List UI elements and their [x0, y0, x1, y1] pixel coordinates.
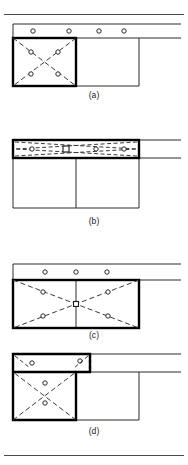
- panel-b-drawing: [0, 136, 188, 228]
- brace-diagonal: [74, 356, 88, 368]
- panel-b: (b): [0, 136, 188, 228]
- figure-root: (a): [0, 0, 188, 465]
- bottom-rule: [4, 455, 184, 456]
- brace-node: [41, 290, 45, 294]
- brace-node: [122, 147, 126, 151]
- beam-node: [97, 29, 101, 33]
- beam-node: [105, 270, 109, 274]
- beam-node: [31, 29, 35, 33]
- beam-node: [122, 29, 126, 33]
- caption-c: (c): [0, 330, 188, 340]
- brace-node: [94, 147, 98, 151]
- caption-a: (a): [0, 90, 188, 100]
- caption-b: (b): [0, 216, 188, 226]
- beam-node: [30, 361, 34, 365]
- brace-node: [29, 72, 33, 76]
- beam-node: [43, 270, 47, 274]
- brace-node: [106, 314, 110, 318]
- brace-node: [41, 314, 45, 318]
- bold-substructure-outline: [13, 354, 90, 420]
- panel-a: (a): [0, 18, 188, 106]
- panel-c: (c): [0, 258, 188, 346]
- brace-node: [30, 147, 34, 151]
- brace-node: [43, 401, 47, 405]
- brace-node: [29, 50, 33, 54]
- beam-node: [74, 270, 78, 274]
- caption-d: (d): [0, 426, 188, 436]
- beam-node: [67, 29, 71, 33]
- brace-node: [43, 381, 47, 385]
- brace-node-flat: [63, 146, 69, 152]
- brace-node: [106, 290, 110, 294]
- brace-node: [56, 72, 60, 76]
- brace-crossing-node: [74, 302, 79, 307]
- top-rule: [4, 14, 184, 15]
- brace-node: [56, 50, 60, 54]
- brace-diagonal: [15, 356, 30, 368]
- panel-d: (d): [0, 350, 188, 442]
